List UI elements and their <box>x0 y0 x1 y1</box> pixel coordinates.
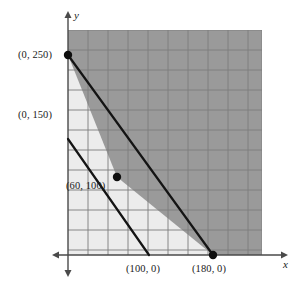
label-0-250: (0, 250) <box>18 50 52 61</box>
label-180-0: (180, 0) <box>192 264 226 275</box>
label-100-0: (100, 0) <box>126 264 160 275</box>
graph-figure: y x (0, 250) (0, 150) (60, 100) (100, 0)… <box>0 0 294 292</box>
y-axis-arrow-up <box>65 11 72 18</box>
y-axis-arrow-down <box>65 270 72 277</box>
x-axis-label: x <box>283 259 288 270</box>
label-60-100: (60, 100) <box>66 181 105 192</box>
x-axis-arrow-left <box>52 252 59 259</box>
point-60-100 <box>113 173 121 181</box>
label-0-150: (0, 150) <box>18 110 52 121</box>
coordinate-plane-svg <box>0 0 294 292</box>
y-axis-label: y <box>74 10 79 21</box>
point-180-0 <box>209 251 217 259</box>
point-0-250 <box>64 51 72 59</box>
